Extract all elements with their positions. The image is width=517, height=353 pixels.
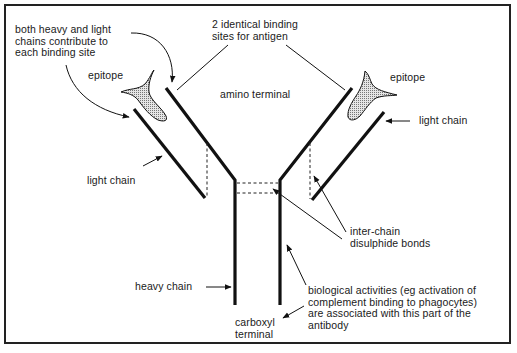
label-light-chain-left: light chain (87, 175, 135, 187)
label-carboxyl-terminal: carboxyl terminal (235, 317, 275, 340)
label-both-chains-contribute: both heavy and light chains contribute t… (15, 24, 111, 59)
pointer-light-chain-left (143, 156, 162, 166)
pointer-carboxyl-terminal (283, 306, 304, 318)
label-amino-terminal: amino terminal (220, 89, 290, 101)
light-chain-left (134, 109, 205, 198)
label-light-chain-right: light chain (419, 115, 467, 127)
pointer-bio-activities (287, 245, 306, 285)
label-binding-sites: 2 identical binding sites for antigen (212, 19, 298, 42)
label-inter-chain-bonds: inter-chain disulphide bonds (350, 226, 430, 249)
label-biological-activities: biological activities (eg activation of … (308, 285, 477, 331)
label-heavy-chain: heavy chain (135, 281, 192, 293)
pointer-binding-site-left (177, 45, 228, 90)
pointer-binding-site-right (286, 45, 345, 90)
pointer-disulphide-light (314, 176, 346, 232)
label-epitope-left: epitope (88, 70, 123, 82)
label-epitope-right: epitope (390, 72, 425, 84)
heavy-chain-left (166, 88, 235, 305)
epitope-left-shape (121, 70, 167, 121)
pointer-disulphide-inter (273, 189, 342, 239)
